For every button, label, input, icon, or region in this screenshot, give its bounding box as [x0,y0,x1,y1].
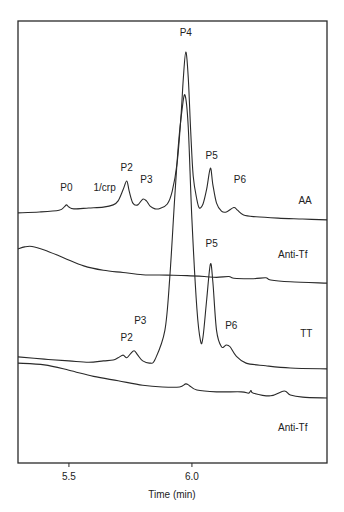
peak-label-aa-1-crp: 1/crp [93,182,116,193]
trace-label-anti-tf-upper: Anti-Tf [278,249,308,260]
peak-label-tt-p6: P6 [225,320,238,331]
trace-label-aa: AA [298,195,312,206]
trace-label-tt: TT [300,328,312,339]
x-tick-label: 5.5 [62,471,76,482]
peak-label-aa-p2: P2 [121,162,134,173]
x-tick-label: 6.0 [185,471,199,482]
peak-label-tt-p2: P2 [121,332,134,343]
peak-label-aa-p5: P5 [205,150,218,161]
peak-label-aa-p4: P4 [180,27,193,38]
peak-label-aa-p0: P0 [60,182,73,193]
trace-label-anti-tf-lower: Anti-Tf [278,422,308,433]
trace-aa [18,52,327,220]
traces-group [18,52,327,398]
peak-label-aa-p6: P6 [234,174,247,185]
trace-tt [18,95,327,369]
peak-label-tt-p5: P5 [205,238,218,249]
labels-group: AAP01/crpP2P3P4P5P6Anti-TfTTP2P3P5P6Anti… [60,27,312,433]
peak-label-aa-p3: P3 [140,174,153,185]
x-axis-title: Time (min) [148,489,195,500]
chromatogram-chart: AAP01/crpP2P3P4P5P6Anti-TfTTP2P3P5P6Anti… [0,0,344,512]
x-axis: 5.56.0 [62,463,199,482]
peak-label-tt-p3: P3 [134,315,147,326]
trace-anti-tf-lower [18,363,327,398]
